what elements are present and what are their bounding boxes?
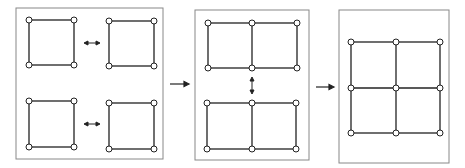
panel-stage-1 bbox=[16, 8, 163, 159]
double-arrow-icon bbox=[84, 41, 100, 126]
right-arrow-icon bbox=[316, 85, 334, 90]
vertical-double-arrow-icon bbox=[250, 77, 254, 94]
assembly-diagram bbox=[0, 0, 465, 168]
stage-1-nodes bbox=[26, 17, 157, 152]
stage-1-squares bbox=[29, 20, 154, 149]
right-arrow-icon bbox=[170, 82, 189, 87]
